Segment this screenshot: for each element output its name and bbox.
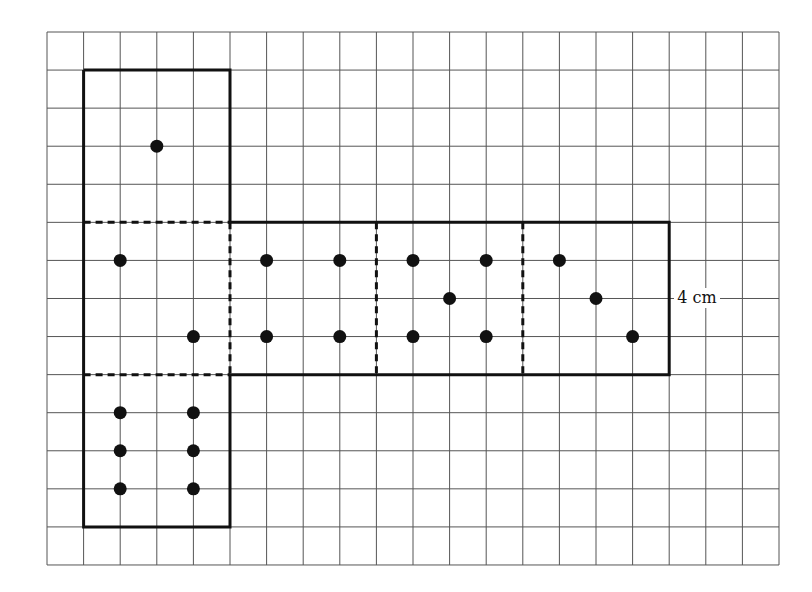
pip-dot	[187, 444, 200, 457]
pip-dot	[407, 254, 420, 267]
pip-dot	[480, 330, 493, 343]
pip-dot	[260, 254, 273, 267]
pip-dot	[114, 254, 127, 267]
pip-dot	[114, 482, 127, 495]
pip-dot	[114, 406, 127, 419]
pip-dot	[407, 330, 420, 343]
pip-dot	[480, 254, 493, 267]
pip-dot	[114, 444, 127, 457]
pip-dot	[626, 330, 639, 343]
pip-dot	[187, 330, 200, 343]
pip-dot	[333, 330, 346, 343]
pip-dot	[187, 482, 200, 495]
pip-dot	[553, 254, 566, 267]
pip-dot	[150, 140, 163, 153]
pip-dot	[187, 406, 200, 419]
dimension-label: 4 cm	[674, 288, 719, 308]
pip-dot	[333, 254, 346, 267]
pip-dot	[260, 330, 273, 343]
pip-dot	[590, 292, 603, 305]
pip-dot	[443, 292, 456, 305]
